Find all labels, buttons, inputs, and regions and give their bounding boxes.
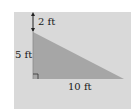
label-bottom-side: 10 ft	[68, 82, 92, 92]
label-top-gap: 2 ft	[38, 17, 55, 27]
diagram-canvas: 2 ft 5 ft 10 ft	[0, 0, 136, 112]
label-left-side: 5 ft	[15, 50, 32, 60]
